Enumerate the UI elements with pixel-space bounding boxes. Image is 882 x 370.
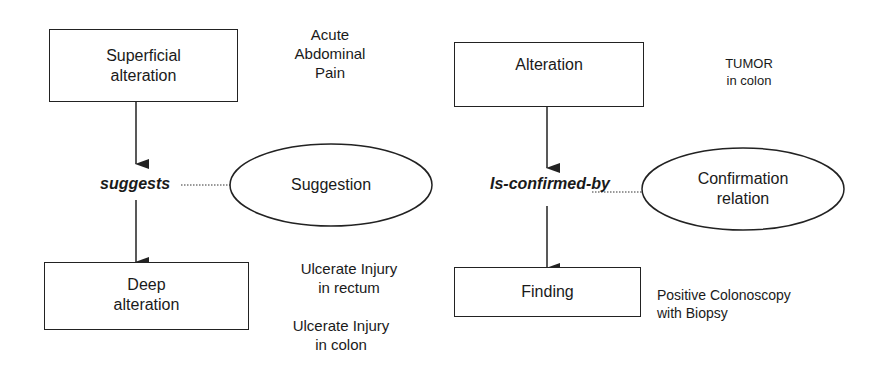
example-colon-line2: in colon [281,335,401,354]
node-deep-alteration: Deep alteration [44,262,249,330]
example-positive-colonoscopy: Positive Colonoscopy with Biopsy [657,286,791,322]
example-colonoscopy-line1: Positive Colonoscopy [657,286,791,304]
node-alteration: Alteration [454,42,644,107]
concept-suggestion: Suggestion [230,165,432,205]
example-acute-abdominal-pain: Acute Abdominal Pain [280,25,380,82]
concept-confirmation-line2: relation [698,189,789,209]
node-superficial-alteration: Superficial alteration [49,29,238,102]
example-colonoscopy-line2: with Biopsy [657,304,791,322]
concept-suggestion-text: Suggestion [291,175,371,195]
example-acute-line2: Abdominal [280,44,380,63]
example-rectum-line1: Ulcerate Injury [289,259,409,278]
node-deep-alteration-line1: Deep [114,275,180,295]
node-finding-line1: Finding [521,282,573,302]
node-alteration-line1: Alteration [515,55,583,75]
example-ulcerate-injury-colon: Ulcerate Injury in colon [281,316,401,354]
relation-suggests: suggests [100,174,170,194]
example-ulcerate-injury-rectum: Ulcerate Injury in rectum [289,259,409,297]
diagram-canvas: Superficial alteration Acute Abdominal P… [0,0,882,370]
node-superficial-alteration-line2: alteration [106,66,181,86]
node-finding: Finding [454,267,641,317]
concept-confirmation-line1: Confirmation [698,169,789,189]
example-tumor-line2: in colon [709,72,789,89]
example-acute-line1: Acute [280,25,380,44]
node-superficial-alteration-line1: Superficial [106,46,181,66]
example-tumor-line1: TUMOR [709,55,789,72]
example-colon-line1: Ulcerate Injury [281,316,401,335]
node-deep-alteration-line2: alteration [114,295,180,315]
example-acute-line3: Pain [280,63,380,82]
relation-is-confirmed-by: Is-confirmed-by [490,174,610,194]
example-rectum-line2: in rectum [289,278,409,297]
example-tumor-in-colon: TUMOR in colon [709,55,789,89]
concept-confirmation-relation: Confirmation relation [642,169,844,209]
